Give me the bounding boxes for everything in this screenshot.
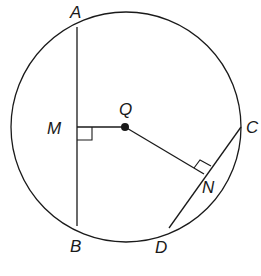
geometry-diagram: A M Q C N B D — [0, 0, 261, 276]
label-n: N — [202, 178, 215, 197]
segment-qn — [125, 127, 204, 174]
label-a: A — [69, 3, 81, 22]
label-d: D — [155, 238, 167, 257]
label-b: B — [70, 237, 81, 256]
right-angle-mark-n — [194, 160, 211, 168]
right-angle-mark-m — [77, 127, 92, 140]
center-point-q — [121, 123, 129, 131]
label-c: C — [246, 118, 259, 137]
label-m: M — [47, 119, 62, 138]
label-q: Q — [119, 100, 132, 119]
